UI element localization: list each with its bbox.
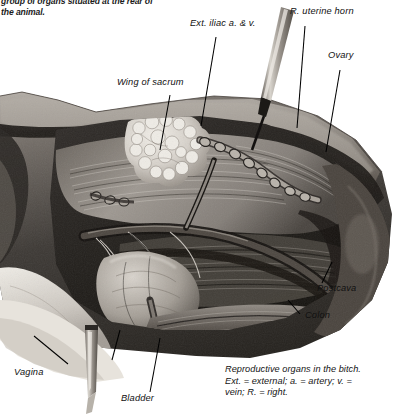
intro-paragraph: group of organs situated at the rear of …	[1, 0, 186, 18]
label-vagina: Vagina	[14, 367, 44, 377]
figure-caption: Reproductive organs in the bitch. Ext. =…	[225, 364, 393, 399]
label-ovary: Ovary	[328, 50, 354, 60]
label-colon: Colon	[305, 310, 330, 320]
label-ext-iliac: Ext. iliac a. & v.	[190, 18, 256, 28]
label-bladder: Bladder	[121, 393, 154, 403]
label-r-uterine-horn: R. uterine horn	[290, 6, 354, 16]
anatomical-photograph	[0, 0, 398, 420]
figure-page: group of organs situated at the rear of …	[0, 0, 398, 420]
label-postcava: Postcava	[317, 283, 356, 293]
label-wing-of-sacrum: Wing of sacrum	[117, 77, 184, 87]
